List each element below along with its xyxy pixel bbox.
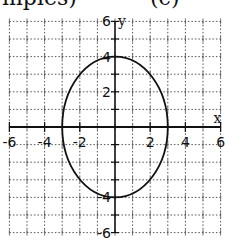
y-tick-label: -6 [97, 225, 111, 241]
x-axis-label: x [214, 110, 222, 126]
x-tick-label: 6 [216, 134, 225, 150]
x-tick-label: 4 [181, 134, 190, 150]
x-tick-label: -4 [38, 134, 52, 150]
y-tick-label: -4 [97, 189, 111, 205]
x-tick-label: -6 [2, 134, 16, 150]
y-tick-label: 6 [102, 13, 111, 29]
x-tick-label: -2 [73, 134, 87, 150]
y-tick-label: 4 [102, 49, 111, 65]
x-tick-label: 2 [146, 134, 155, 150]
axes [9, 21, 220, 232]
y-axis-label: y [117, 13, 126, 29]
ellipse-graph: -6-4-2246642-4-6yx [0, 0, 225, 241]
y-tick-label: 2 [102, 84, 111, 100]
